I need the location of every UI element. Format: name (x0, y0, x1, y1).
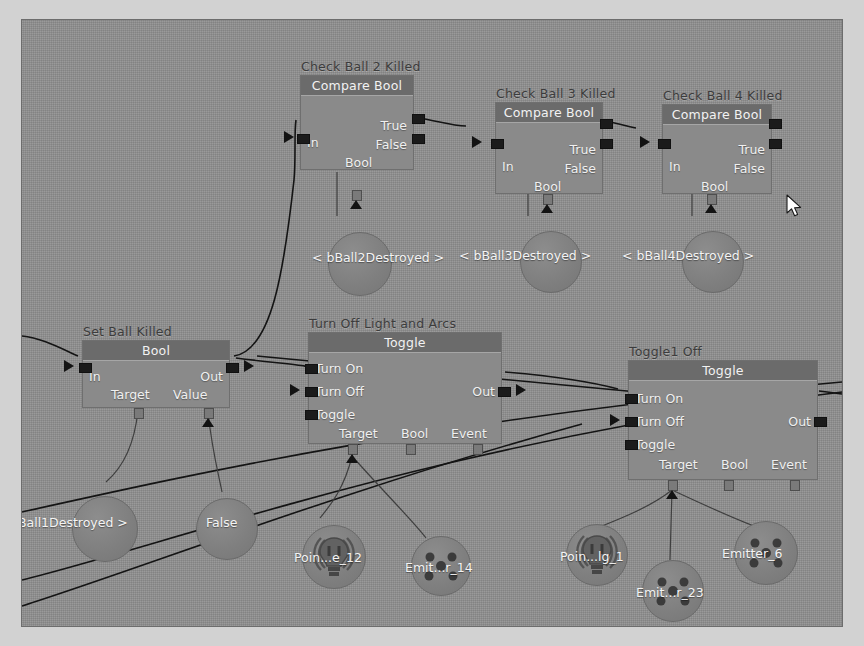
pin-label-in: In (669, 159, 681, 174)
node-toggle1-off[interactable]: Toggle1 Off Toggle Turn On Turn Off Togg… (628, 360, 818, 480)
pin-label-target: Target (339, 426, 378, 441)
pin-event-toggle1-off[interactable] (790, 480, 800, 491)
node-title: Set Ball Killed (83, 324, 172, 339)
node-body: In True False Bool (301, 96, 413, 169)
variable-bubble-false[interactable] (196, 498, 258, 560)
pin-label-bool: Bool (721, 457, 748, 472)
node-body: In Out Target Value (83, 361, 229, 407)
wire-arrow-target-toggle1 (666, 490, 678, 499)
node-title: Check Ball 3 Killed (496, 86, 616, 101)
pin-label-out: Out (472, 384, 495, 399)
wire-arrow-out-turnoff (516, 384, 526, 396)
node-check-ball-3-killed[interactable]: Check Ball 3 Killed Compare Bool In True… (495, 102, 603, 194)
pin-in-set-ball-killed[interactable] (79, 363, 92, 373)
pin-in-check4[interactable] (658, 139, 671, 149)
pin-toggle-turn-off-light[interactable] (305, 410, 318, 420)
node-body: Turn On Turn Off Toggle Out Target Bool … (629, 381, 817, 479)
wire-arrow-bool-check3 (541, 204, 553, 213)
node-set-ball-killed[interactable]: Set Ball Killed Bool In Out Target Value (82, 340, 230, 408)
mouse-cursor-arrow-pointer (786, 194, 804, 220)
pin-false-check3[interactable] (600, 139, 613, 149)
pin-turn-on-turn-off-light[interactable] (305, 364, 318, 374)
pin-label-turn-off: Turn Off (315, 384, 364, 399)
pin-toggle-toggle1-off[interactable] (625, 440, 638, 450)
pin-event-turn-off-light[interactable] (473, 444, 483, 455)
pin-label-true: True (738, 142, 765, 157)
wire-arrow-out-setball (244, 360, 254, 372)
asset-bubble-emitter-14[interactable] (411, 536, 471, 596)
wire-arrow-value-setball (202, 418, 214, 427)
pin-in-check2[interactable] (297, 134, 310, 144)
emitter-icon (735, 522, 797, 584)
pin-label-true: True (569, 142, 596, 157)
wire-arrow-in-toggle1 (610, 414, 620, 426)
wire-arrow-in-setball (64, 360, 74, 372)
pin-label-toggle: Toggle (635, 437, 675, 452)
node-turn-off-light-and-arcs[interactable]: Turn Off Light and Arcs Toggle Turn On T… (308, 332, 502, 444)
node-body: Turn On Turn Off Toggle Out Target Bool … (309, 353, 501, 443)
point-light-icon (303, 526, 365, 588)
asset-bubble-emitter-23[interactable] (642, 560, 704, 622)
wire-arrow-in-check4 (640, 136, 650, 148)
pin-label-bool: Bool (345, 155, 372, 170)
variable-bubble-bball4[interactable] (682, 231, 744, 293)
pin-label-false: False (376, 137, 407, 152)
wire-arrow-bool-check4 (705, 204, 717, 213)
pin-label-false: False (734, 161, 765, 176)
asset-bubble-emitter-6[interactable] (734, 521, 798, 585)
graph-editor-window: < bBall2Destroyed > < bBall3Destroyed > … (0, 0, 864, 646)
pin-label-turn-on: Turn On (315, 361, 363, 376)
node-title: Turn Off Light and Arcs (309, 316, 456, 331)
node-check-ball-4-killed[interactable]: Check Ball 4 Killed Compare Bool In True… (662, 104, 772, 194)
pin-label-bool: Bool (401, 426, 428, 441)
node-header: Compare Bool (301, 76, 413, 96)
pin-label-target: Target (111, 387, 150, 402)
pin-out-toggle1-off[interactable] (814, 417, 827, 427)
node-header: Compare Bool (496, 103, 602, 123)
pin-true-check3[interactable] (600, 119, 613, 129)
pin-label-true: True (380, 118, 407, 133)
wire-arrow-target-turnoff (346, 454, 358, 463)
pin-out-set-ball-killed[interactable] (226, 363, 239, 373)
pin-in-check3[interactable] (491, 139, 504, 149)
pin-false-check4[interactable] (769, 139, 782, 149)
asset-bubble-point-light-12[interactable] (302, 525, 366, 589)
node-header: Toggle (309, 333, 501, 353)
wire-arrow-bool-check2 (350, 200, 362, 209)
pin-label-bool: Bool (534, 179, 561, 194)
pin-turn-off-turn-off-light[interactable] (305, 387, 318, 397)
pin-false-check2[interactable] (412, 134, 425, 144)
node-header: Toggle (629, 361, 817, 381)
pin-label-false: False (565, 161, 596, 176)
pin-label-toggle: Toggle (315, 407, 355, 422)
graph-canvas[interactable]: < bBall2Destroyed > < bBall3Destroyed > … (22, 20, 842, 626)
pin-turn-off-toggle1-off[interactable] (625, 417, 638, 427)
pin-turn-on-toggle1-off[interactable] (625, 394, 638, 404)
variable-bubble-bball1[interactable] (72, 496, 138, 562)
pin-label-event: Event (771, 457, 807, 472)
pin-label-bool: Bool (701, 179, 728, 194)
variable-bubble-bball3[interactable] (520, 231, 582, 293)
pin-label-turn-off: Turn Off (635, 414, 684, 429)
variable-bubble-bball2[interactable] (328, 232, 392, 296)
node-title: Toggle1 Off (629, 344, 702, 359)
node-body: In True False Bool (496, 123, 602, 193)
pin-target-set-ball-killed[interactable] (134, 408, 144, 419)
wire-arrow-in-check3 (472, 136, 482, 148)
node-header: Compare Bool (663, 105, 771, 125)
pin-out-turn-off-light[interactable] (498, 387, 511, 397)
pin-true-check2[interactable] (412, 114, 425, 124)
pin-true-check4[interactable] (769, 119, 782, 129)
pin-bool-toggle1-off[interactable] (724, 480, 734, 491)
wire-arrow-in-check2 (284, 131, 294, 143)
node-check-ball-2-killed[interactable]: Check Ball 2 Killed Compare Bool In True… (300, 75, 414, 170)
node-title: Check Ball 4 Killed (663, 88, 783, 103)
pin-label-target: Target (659, 457, 698, 472)
emitter-icon (643, 561, 703, 621)
emitter-icon (412, 537, 470, 595)
asset-bubble-point-light-1[interactable] (566, 524, 628, 586)
pin-label-out: Out (200, 369, 223, 384)
pin-bool-turn-off-light[interactable] (406, 444, 416, 455)
wire-arrow-in-turnoff (290, 384, 300, 396)
node-title: Check Ball 2 Killed (301, 59, 421, 74)
